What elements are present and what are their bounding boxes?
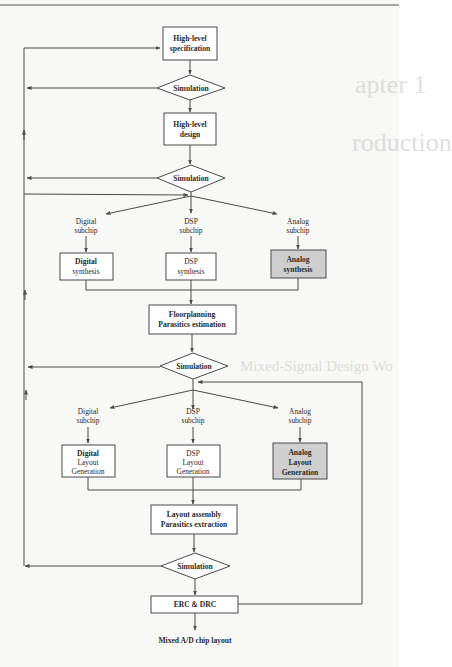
- svg-text:Digital: Digital: [75, 257, 97, 266]
- svg-text:specification: specification: [170, 44, 211, 53]
- svg-text:Simulation: Simulation: [176, 362, 212, 371]
- svg-text:subchip: subchip: [75, 226, 98, 235]
- svg-text:design: design: [180, 130, 201, 139]
- svg-text:DSP: DSP: [186, 407, 200, 416]
- node-erc-drc: ERC & DRC: [151, 596, 238, 613]
- svg-text:subchip: subchip: [289, 416, 312, 425]
- node-layout-assembly: Layout assembly Parasitics extraction: [151, 505, 237, 534]
- branch-1-arrows: [106, 192, 277, 214]
- svg-text:Simulation: Simulation: [173, 84, 209, 93]
- svg-text:DSP: DSP: [184, 217, 198, 226]
- svg-text:Floorplanning: Floorplanning: [169, 310, 216, 319]
- svg-text:Analog: Analog: [287, 217, 309, 226]
- branch-2-arrows: [110, 379, 278, 409]
- svg-text:Parasitics estimation: Parasitics estimation: [158, 320, 226, 329]
- svg-text:DSP: DSP: [184, 257, 198, 266]
- decision-simulation-2: Simulation: [157, 165, 225, 192]
- decision-simulation-1: Simulation: [157, 75, 225, 100]
- svg-text:Analog: Analog: [288, 448, 311, 457]
- svg-text:Generation: Generation: [177, 467, 210, 476]
- node-analog-synthesis: Analog synthesis: [271, 250, 326, 278]
- svg-text:DSP: DSP: [186, 449, 200, 458]
- svg-text:synthesis: synthesis: [283, 265, 312, 274]
- output-mixed-ad-chip-layout: Mixed A/D chip layout: [158, 636, 232, 645]
- merge-line-2: [88, 477, 301, 490]
- label-analog-subchip-1: Analog subchip: [287, 217, 310, 235]
- node-high-level-specification: High-level specification: [163, 27, 217, 60]
- svg-text:Analog: Analog: [289, 407, 311, 416]
- svg-text:subchip: subchip: [287, 226, 310, 235]
- label-dsp-subchip-2: DSP subchip: [182, 407, 205, 425]
- right-feedback-loop: [198, 382, 362, 604]
- label-digital-subchip-1: Digital subchip: [75, 217, 98, 235]
- node-dsp-layout-generation: DSP Layout Generation: [167, 445, 220, 477]
- svg-text:Digital: Digital: [76, 217, 97, 226]
- svg-text:Layout: Layout: [288, 458, 312, 467]
- svg-text:subchip: subchip: [180, 226, 203, 235]
- svg-text:Layout assembly: Layout assembly: [167, 510, 222, 519]
- node-high-level-design: High-level design: [164, 113, 216, 145]
- label-digital-subchip-2: Digital subchip: [77, 407, 100, 425]
- decision-simulation-3: Simulation: [160, 353, 228, 379]
- svg-text:synthesis: synthesis: [72, 267, 99, 276]
- svg-text:Layout: Layout: [183, 458, 205, 467]
- svg-text:Layout: Layout: [78, 458, 100, 467]
- node-floorplanning: Floorplanning Parasitics estimation: [149, 305, 236, 334]
- svg-text:High-level: High-level: [173, 34, 206, 43]
- svg-text:Parasitics extraction: Parasitics extraction: [161, 520, 228, 529]
- svg-text:subchip: subchip: [77, 416, 100, 425]
- label-analog-subchip-2: Analog subchip: [289, 407, 312, 425]
- svg-text:ERC & DRC: ERC & DRC: [174, 600, 217, 609]
- svg-text:subchip: subchip: [182, 416, 205, 425]
- svg-text:Generation: Generation: [282, 468, 319, 477]
- decision-simulation-4: Simulation: [161, 553, 230, 579]
- svg-text:synthesis: synthesis: [177, 267, 204, 276]
- svg-text:Digital: Digital: [78, 407, 99, 416]
- node-dsp-synthesis: DSP synthesis: [166, 253, 216, 280]
- svg-text:Simulation: Simulation: [177, 562, 213, 571]
- node-analog-layout-generation: Analog Layout Generation: [273, 443, 327, 479]
- label-dsp-subchip-1: DSP subchip: [180, 217, 203, 235]
- svg-text:Analog: Analog: [286, 255, 309, 264]
- node-digital-synthesis: Digital synthesis: [60, 253, 113, 280]
- svg-text:High-level: High-level: [173, 120, 206, 129]
- svg-text:Generation: Generation: [72, 467, 105, 476]
- node-digital-layout-generation: Digital Layout Generation: [62, 445, 115, 477]
- svg-text:Simulation: Simulation: [173, 174, 209, 183]
- svg-text:Digital: Digital: [77, 449, 99, 458]
